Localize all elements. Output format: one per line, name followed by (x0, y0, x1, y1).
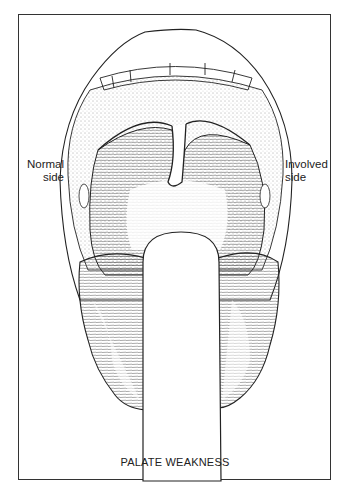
involved-side-label-line2: side (285, 171, 331, 184)
tongue-depressor (143, 232, 221, 481)
normal-side-label: Normal side (24, 158, 64, 184)
normal-side-label-line1: Normal (24, 158, 64, 171)
figure-caption: PALATE WEAKNESS (0, 456, 350, 468)
mouth-illustration (0, 0, 350, 488)
involved-side-label: Involved side (285, 158, 331, 184)
involved-side-label-line1: Involved (285, 158, 331, 171)
normal-side-label-line2: side (24, 171, 64, 184)
